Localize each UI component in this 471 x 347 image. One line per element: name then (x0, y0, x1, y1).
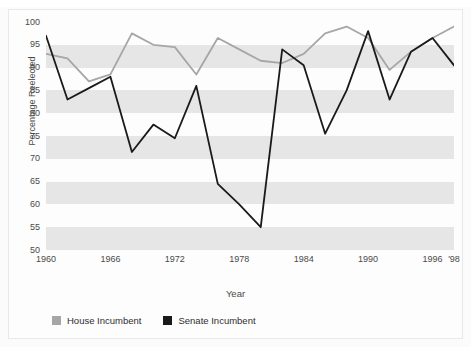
y-tick-label: 65 (6, 177, 40, 186)
chart-figure: 10095908580757065605550 Percentage Reele… (0, 0, 471, 347)
x-tick-label: '98 (448, 254, 460, 264)
line-chart-svg (46, 22, 454, 250)
x-axis-title: Year (0, 288, 471, 299)
series-line (46, 31, 454, 227)
legend-swatch-icon (52, 316, 61, 325)
x-tick-label: 1990 (358, 254, 378, 264)
y-axis-title: Percentage Reelected (27, 41, 37, 161)
legend-label: House Incumbent (67, 315, 141, 326)
x-tick-label: 1966 (100, 254, 120, 264)
series-line (46, 27, 454, 82)
series-lines-container (46, 22, 454, 250)
y-tick-label: 50 (6, 246, 40, 255)
x-tick-label: 1984 (294, 254, 314, 264)
x-tick-label: 1996 (423, 254, 443, 264)
plot-area (46, 22, 454, 250)
chart-legend: House IncumbentSenate Incumbent (52, 315, 256, 326)
x-axis-tick-labels: 1960196619721978198419901996'98 (46, 254, 466, 268)
legend-item[interactable]: House Incumbent (52, 315, 141, 326)
y-tick-label: 100 (6, 18, 40, 27)
legend-item[interactable]: Senate Incumbent (163, 315, 255, 326)
x-tick-label: 1972 (165, 254, 185, 264)
x-tick-label: 1978 (229, 254, 249, 264)
y-tick-label: 60 (6, 200, 40, 209)
x-tick-label: 1960 (36, 254, 56, 264)
legend-swatch-icon (163, 316, 172, 325)
y-tick-label: 55 (6, 223, 40, 232)
cut-off-caption-strip (0, 0, 471, 7)
legend-label: Senate Incumbent (178, 315, 255, 326)
